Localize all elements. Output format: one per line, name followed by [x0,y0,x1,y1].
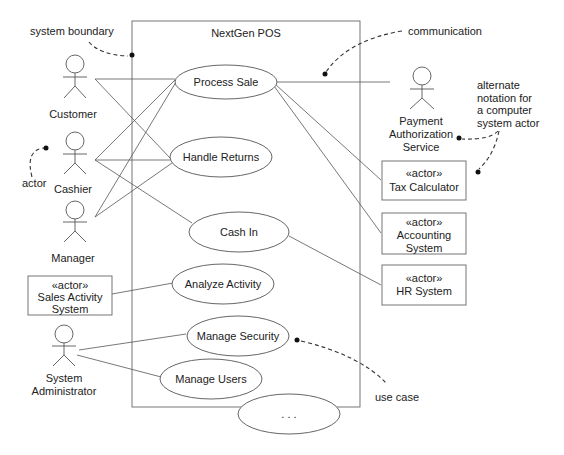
annotation-label: a computer [477,104,532,116]
system-title: NextGen POS [211,27,281,39]
stick-figure-icon [52,325,76,366]
actor-label: System [52,303,89,315]
use-case-manage-security[interactable]: Manage Security [187,316,289,356]
stereotype-label: «actor» [406,167,443,179]
annotation-label: system boundary [30,25,114,37]
stereotype-label: «actor» [406,216,443,228]
leader-line [462,131,498,139]
leader-dot [476,170,481,175]
system-actor-accounting-system[interactable]: «actor» Accounting System [382,213,466,254]
use-case-label: Analyze Activity [185,278,262,290]
actor-label: Sales Activity [38,291,103,303]
leader-line [89,42,128,56]
assoc-manager-process-sale [95,82,176,217]
assoc-cashier-cash-in [95,160,192,223]
use-case-diagram: NextGen POS Process Sale Handle Returns … [0,0,564,455]
annotation-actor: actor [22,146,49,190]
annotation-label: actor [22,177,47,189]
use-case-more[interactable]: . . . [238,394,340,434]
assoc-sales-analyze [112,283,173,294]
actor-label: Payment [399,115,442,127]
actor-label: HR System [396,285,452,297]
assoc-admin-users [77,355,165,378]
actor-label: Tax Calculator [389,181,459,193]
stick-figure-icon [63,201,87,242]
actor-label: Authorization [389,128,453,140]
system-actor-hr-system[interactable]: «actor» HR System [382,265,466,305]
stick-figure-icon [63,55,87,98]
use-case-analyze-activity[interactable]: Analyze Activity [172,264,274,304]
use-case-cash-in[interactable]: Cash In [189,212,289,252]
leader-line [301,341,387,384]
leader-dot [457,136,462,141]
use-case-manage-users[interactable]: Manage Users [160,359,262,399]
actor-manager[interactable]: Manager [51,201,95,264]
actor-system-administrator[interactable]: System Administrator [32,325,97,397]
leader-line [30,148,44,177]
actor-label: System [46,372,83,384]
stick-figure-icon [63,132,87,174]
actor-label: Cashier [54,183,92,195]
stick-figure-icon [410,67,434,109]
actor-label: System [406,242,443,254]
use-case-label: . . . [281,408,296,420]
use-case-label: Handle Returns [183,151,260,163]
stereotype-label: «actor» [406,272,443,284]
use-case-label: Cash In [220,226,258,238]
annotation-label: alternate [477,79,520,91]
assoc-manager-handle-returns [95,163,172,217]
system-actor-tax-calculator[interactable]: «actor» Tax Calculator [382,161,466,200]
annotation-communication: communication [323,25,482,77]
annotation-label: notation for [477,92,532,104]
use-case-label: Manage Users [175,373,247,385]
annotation-alternate-notation: alternate notation for a computer system… [457,79,540,175]
stereotype-label: «actor» [52,279,89,291]
assoc-process-sale-tax [275,84,381,180]
actor-label: Accounting [397,229,451,241]
actor-payment-authorization-service[interactable]: Payment Authorization Service [389,67,453,153]
leader-dot [44,146,49,151]
assoc-process-sale-accounting [274,86,381,233]
actor-label: Service [403,141,440,153]
use-case-label: Process Sale [194,76,259,88]
assoc-admin-security [79,334,186,350]
actor-label: Customer [49,108,97,120]
use-case-process-sale[interactable]: Process Sale [175,65,277,99]
leader-dot [295,338,300,343]
use-case-label: Manage Security [197,330,280,342]
annotation-label: system actor [477,117,540,129]
leader-dot [323,72,328,77]
leader-dot [130,53,135,58]
actor-cashier[interactable]: Cashier [54,132,92,195]
actor-label: Manager [51,252,95,264]
annotation-label: use case [375,391,419,403]
annotation-use-case: use case [295,338,420,404]
assoc-customer-handle-returns [95,79,171,159]
annotation-label: communication [408,25,482,37]
leader-line [326,31,402,72]
use-case-handle-returns[interactable]: Handle Returns [170,137,272,177]
annotation-system-boundary: system boundary [30,25,135,58]
system-actor-sales-activity-system[interactable]: «actor» Sales Activity System [28,276,112,315]
actor-label: Administrator [32,385,97,397]
actor-customer[interactable]: Customer [49,55,97,120]
assoc-cash-in-hr [289,236,381,285]
